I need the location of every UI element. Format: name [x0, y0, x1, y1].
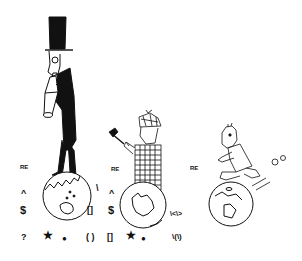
dot-symbol-2: ●: [141, 235, 146, 243]
re-label-1: RE: [20, 164, 28, 170]
caret-symbol-2: ^: [109, 189, 114, 198]
backslash-symbol-1: \: [96, 184, 99, 193]
question-symbol-1: ?: [21, 233, 27, 242]
caret-symbol-1: ^: [21, 189, 26, 198]
re-label-2: RE: [111, 166, 119, 172]
dot-symbol-1: ●: [62, 235, 67, 243]
globe-2: [120, 182, 166, 228]
brackets-symbol-1: []: [87, 206, 93, 215]
word-boundary-symbol: \<\>: [170, 210, 182, 217]
re-label-3: RE: [190, 165, 198, 171]
globe-1: [43, 172, 91, 220]
detective-figure: [109, 110, 161, 190]
star-symbol-2: ★: [126, 230, 136, 241]
group-escape-symbol: \(\): [172, 233, 182, 241]
star-symbol-1: ★: [43, 230, 53, 241]
parens-symbol-1: ( ): [86, 233, 95, 242]
globe-3: [209, 182, 253, 226]
illustration-drawing: [0, 0, 302, 261]
illustration-canvas: RE ^ $ ? ★ ● \ [] ( ) RE ^ $ [] ★ ● \<\>…: [0, 0, 302, 261]
running-man-figure: [218, 123, 286, 190]
top-hat-man-figure: [44, 17, 77, 176]
brackets-symbol-2: []: [107, 233, 113, 242]
dollar-symbol-2: $: [108, 205, 114, 216]
dollar-symbol-1: $: [20, 205, 26, 216]
